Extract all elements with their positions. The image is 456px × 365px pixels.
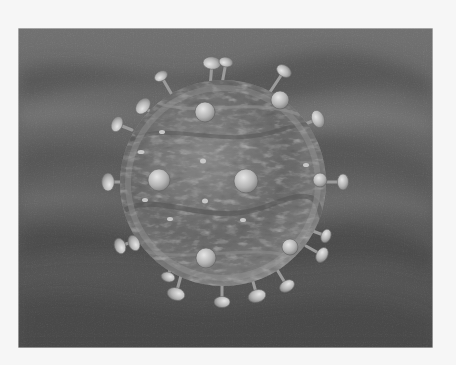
image-frame: Grayscale illustration of a spherical vi…	[0, 0, 456, 365]
virus-render-canvas	[18, 28, 433, 348]
spike-head	[337, 174, 348, 190]
surface-knob	[282, 239, 298, 255]
spike-head	[214, 296, 230, 307]
surface-knob	[313, 173, 327, 187]
surface-knob	[271, 91, 289, 109]
surface-knob	[196, 248, 216, 268]
surface-knob	[148, 169, 170, 191]
virus-illustration: Grayscale illustration of a spherical vi…	[18, 28, 433, 348]
surface-knob	[234, 169, 258, 193]
spike-head	[102, 173, 115, 191]
surface-knob	[195, 102, 215, 122]
